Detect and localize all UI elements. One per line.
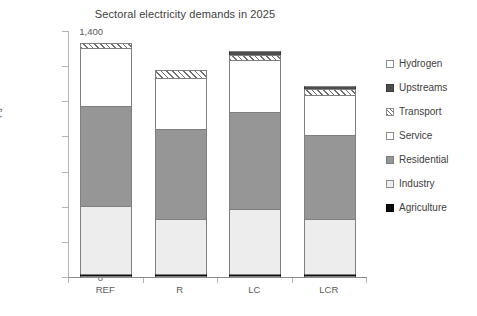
bar-segment-residential[interactable] — [304, 135, 356, 219]
x-axis-tick-mark — [143, 278, 144, 283]
service-swatch-icon — [386, 132, 394, 140]
legend-item-label: Hydrogen — [399, 59, 442, 69]
chart-legend: HydrogenUpstreamsTransportServiceResiden… — [386, 52, 474, 220]
legend-item-label: Agriculture — [399, 203, 447, 213]
bar-stack[interactable] — [80, 31, 132, 277]
legend-item-label: Residential — [399, 155, 448, 165]
bar-segment-transport[interactable] — [229, 55, 281, 60]
bar-segment-agriculture[interactable] — [304, 274, 356, 277]
legend-item-upstreams[interactable]: Upstreams — [386, 76, 474, 100]
legend-item-industry[interactable]: Industry — [386, 172, 474, 196]
legend-item-transport[interactable]: Transport — [386, 100, 474, 124]
hydrogen-swatch-icon — [386, 60, 394, 68]
bar-segment-agriculture[interactable] — [155, 274, 207, 277]
x-axis-tick-label: REF — [65, 284, 145, 295]
legend-item-label: Transport — [399, 107, 441, 117]
transport-swatch-icon — [386, 108, 394, 116]
x-axis-tick-label: LC — [214, 284, 294, 295]
bar-stack[interactable] — [155, 31, 207, 277]
bar-segment-agriculture[interactable] — [229, 274, 281, 277]
bar-stack[interactable] — [304, 31, 356, 277]
industry-swatch-icon — [386, 180, 394, 188]
bar-segment-residential[interactable] — [80, 106, 132, 206]
bar-segment-industry[interactable] — [304, 219, 356, 274]
bar-segment-residential[interactable] — [229, 112, 281, 209]
bar-segment-agriculture[interactable] — [80, 274, 132, 277]
bar-segment-service[interactable] — [229, 60, 281, 112]
legend-item-service[interactable]: Service — [386, 124, 474, 148]
y-axis-title: PJ — [0, 108, 4, 118]
x-axis-tick-mark — [292, 278, 293, 283]
bar-segment-transport[interactable] — [304, 89, 356, 95]
chart-container: Sectoral electricity demands in 2025 PJ … — [0, 0, 477, 316]
bar-segment-industry[interactable] — [80, 206, 132, 275]
plot-area — [68, 31, 367, 278]
x-axis-tick-label: R — [140, 284, 220, 295]
upstreams-swatch-icon — [386, 84, 394, 92]
residential-swatch-icon — [386, 156, 394, 164]
bar-segment-service[interactable] — [80, 48, 132, 106]
x-axis-tick-mark — [366, 278, 367, 283]
legend-item-residential[interactable]: Residential — [386, 148, 474, 172]
bar-segment-residential[interactable] — [155, 129, 207, 219]
chart-title: Sectoral electricity demands in 2025 — [0, 8, 370, 20]
bar-segment-transport[interactable] — [155, 70, 207, 78]
x-axis-tick-label: LCR — [289, 284, 369, 295]
bar-segment-service[interactable] — [304, 95, 356, 135]
legend-item-label: Upstreams — [399, 83, 447, 93]
legend-item-hydrogen[interactable]: Hydrogen — [386, 52, 474, 76]
bar-segment-industry[interactable] — [155, 219, 207, 274]
legend-item-label: Industry — [399, 179, 435, 189]
legend-item-agriculture[interactable]: Agriculture — [386, 196, 474, 220]
bar-stack[interactable] — [229, 31, 281, 277]
bar-segment-upstreams[interactable] — [304, 86, 356, 89]
agriculture-swatch-icon — [386, 204, 394, 212]
bar-segment-industry[interactable] — [229, 209, 281, 274]
bar-segment-service[interactable] — [155, 78, 207, 129]
bar-segment-transport[interactable] — [80, 43, 132, 47]
bar-segment-upstreams[interactable] — [229, 51, 281, 55]
x-axis-tick-mark — [68, 278, 69, 283]
legend-item-label: Service — [399, 131, 432, 141]
x-axis-tick-mark — [217, 278, 218, 283]
